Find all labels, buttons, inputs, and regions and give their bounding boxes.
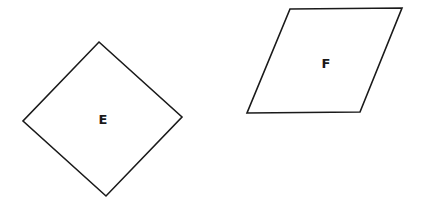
shape-f-label: F — [322, 56, 331, 71]
shape-e: E — [23, 42, 182, 196]
shape-e-label: E — [99, 112, 108, 127]
shape-f: F — [247, 8, 402, 113]
diagram-canvas: E F — [0, 0, 446, 204]
